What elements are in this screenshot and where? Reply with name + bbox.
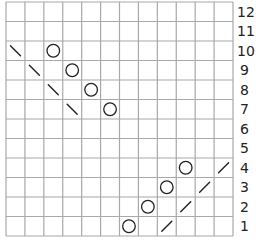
row-number-label: 11: [237, 23, 255, 39]
row-number-label: 9: [240, 62, 249, 78]
row-labels: 123456789101112: [237, 4, 255, 235]
row-number-label: 1: [240, 218, 249, 234]
decrease-right-slash-icon: [162, 221, 172, 231]
row-number-label: 5: [240, 140, 249, 156]
row-number-label: 12: [237, 4, 255, 20]
row-number-label: 10: [237, 43, 255, 59]
row-number-label: 3: [240, 179, 249, 195]
row-number-label: 4: [240, 160, 249, 176]
row-number-label: 8: [240, 82, 249, 98]
decrease-right-slash-icon: [200, 182, 210, 192]
decrease-left-slash-icon: [67, 104, 77, 114]
yarn-over-circle-icon: [66, 64, 79, 77]
knitting-chart: 123456789101112: [0, 0, 256, 243]
yarn-over-circle-icon: [47, 44, 60, 57]
row-number-label: 6: [240, 121, 249, 137]
yarn-over-circle-icon: [85, 83, 98, 96]
yarn-over-circle-icon: [160, 181, 173, 194]
decrease-right-slash-icon: [219, 163, 229, 173]
decrease-left-slash-icon: [10, 46, 20, 56]
yarn-over-circle-icon: [142, 200, 155, 213]
decrease-left-slash-icon: [48, 85, 58, 95]
yarn-over-circle-icon: [179, 161, 192, 174]
chart-grid: [6, 2, 233, 236]
decrease-left-slash-icon: [29, 65, 39, 75]
decrease-right-slash-icon: [181, 202, 191, 212]
row-number-label: 7: [240, 101, 249, 117]
row-number-label: 2: [240, 199, 249, 215]
yarn-over-circle-icon: [123, 220, 136, 233]
yarn-over-circle-icon: [104, 103, 117, 116]
